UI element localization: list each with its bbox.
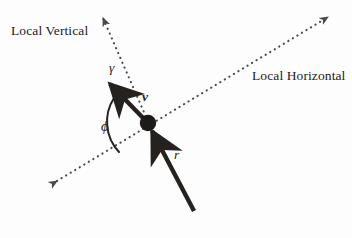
- point-mass-dot: [140, 115, 156, 131]
- radius-vector-line: [152, 131, 194, 211]
- velocity-vector-label: v: [142, 90, 148, 104]
- flight-path-angle-diagram: Local Vertical Local Horizontal γ v ϕ r: [0, 0, 352, 238]
- local-vertical-label: Local Vertical: [11, 24, 88, 38]
- local-horizontal-axis-line: [57, 17, 328, 181]
- phi-angle-label: ϕ: [101, 119, 109, 134]
- radius-vector-label: r: [174, 148, 179, 162]
- gamma-angle-label: γ: [109, 61, 114, 75]
- local-horizontal-label: Local Horizontal: [252, 69, 345, 83]
